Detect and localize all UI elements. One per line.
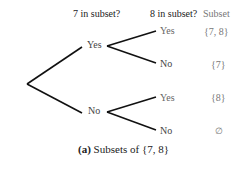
edge-root-no	[27, 84, 82, 113]
node-8-yes-a: Yes	[160, 26, 175, 36]
caption-tag: (a)	[78, 143, 91, 155]
edge-no-no	[107, 112, 156, 130]
subset-7: {7}	[211, 60, 226, 70]
subset-7-8: {7, 8}	[204, 27, 229, 37]
header-7-in-subset: 7 in subset?	[73, 9, 120, 19]
node-7-no: No	[88, 106, 100, 116]
subset-empty: ∅	[215, 127, 223, 136]
header-subset: Subset	[203, 9, 230, 19]
node-8-no-b: No	[160, 126, 172, 136]
caption-text: Subsets of {7, 8}	[94, 143, 169, 155]
node-7-yes: Yes	[87, 40, 102, 50]
figure-caption: (a) Subsets of {7, 8}	[0, 143, 247, 155]
node-8-no-a: No	[160, 59, 172, 69]
header-8-in-subset: 8 in subset?	[150, 9, 197, 19]
edge-yes-no	[107, 46, 156, 63]
edge-no-yes	[107, 97, 156, 112]
subset-8: {8}	[211, 93, 226, 103]
node-8-yes-b: Yes	[160, 93, 175, 103]
edge-yes-yes	[107, 31, 156, 46]
edge-root-yes	[27, 47, 82, 84]
